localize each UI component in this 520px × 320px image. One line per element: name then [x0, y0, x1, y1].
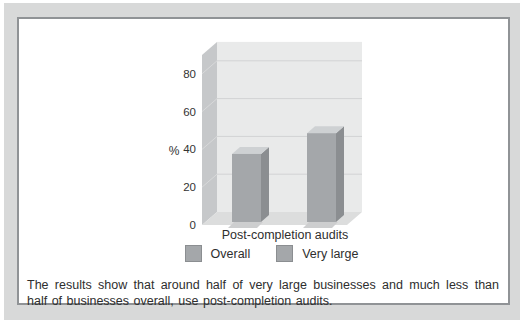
y-axis-tick-label-20: 20: [183, 181, 196, 193]
legend-label-overall: Overall: [211, 247, 251, 261]
bar-overall-side: [261, 147, 269, 222]
caption-text: The results show that around half of ver…: [27, 277, 499, 309]
figure-panel: 020406080%Post-completion audits Overall…: [17, 17, 510, 305]
y-axis-tick-label-60: 60: [183, 106, 196, 118]
bar-overall-front: [232, 154, 261, 222]
legend-swatch-very-large: [276, 245, 293, 262]
y-axis-tick-label-80: 80: [183, 68, 196, 80]
wall-left: [202, 42, 217, 225]
bar-very-large-side: [336, 126, 344, 222]
y-axis-tick-label-40: 40: [183, 143, 196, 155]
x-axis-label: Post-completion audits: [222, 228, 348, 242]
legend-swatch-overall: [185, 245, 202, 262]
y-axis-title: %: [169, 144, 180, 158]
bar-very-large-front: [307, 133, 336, 222]
legend-label-very-large: Very large: [302, 247, 358, 261]
chart-legend: Overall Very large: [35, 245, 508, 262]
outer-mat: 020406080%Post-completion audits Overall…: [4, 3, 520, 320]
legend-item-overall: Overall: [185, 245, 251, 262]
legend-item-very-large: Very large: [276, 245, 358, 262]
y-axis-tick-label-0: 0: [190, 219, 196, 231]
